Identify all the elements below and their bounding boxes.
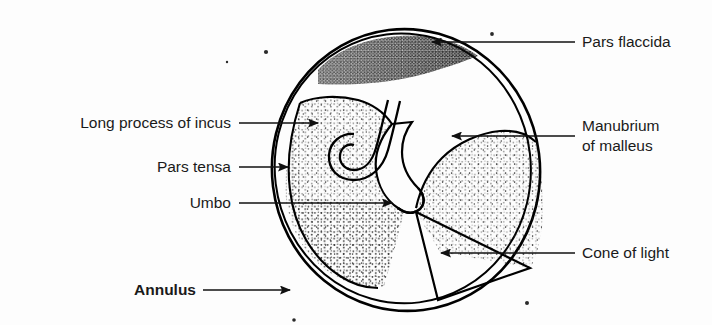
label-text-annulus: Annulus — [134, 281, 196, 298]
label-text-long-process-of-incus: Long process of incus — [80, 114, 231, 131]
scan-speck — [264, 50, 268, 54]
scan-speck — [292, 318, 296, 322]
label-annulus: Annulus — [134, 281, 290, 298]
label-text-umbo: Umbo — [190, 194, 231, 211]
label-text-pars-tensa: Pars tensa — [157, 158, 231, 175]
label-text-pars-flaccida: Pars flaccida — [582, 33, 671, 50]
scan-speck — [226, 61, 228, 63]
scan-speck — [525, 301, 529, 305]
label-text-manubrium-of-malleus: Manubrium — [582, 117, 660, 134]
label-pars-flaccida: Pars flaccida — [432, 33, 671, 50]
diagram-page: Long process of incusPars tensaUmboAnnul… — [0, 0, 712, 325]
tympanic-membrane-figure: Long process of incusPars tensaUmboAnnul… — [0, 0, 712, 325]
scan-speck — [490, 32, 494, 36]
label-text-cone-of-light: Cone of light — [582, 244, 670, 261]
label-pars-tensa: Pars tensa — [157, 158, 288, 175]
label-text-manubrium-of-malleus-line2: of malleus — [582, 137, 653, 154]
